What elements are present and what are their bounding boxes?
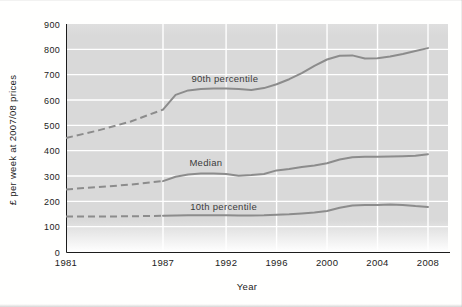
x-tick-label: 2008 [417,257,439,268]
x-tick-label: 1981 [55,257,77,268]
page-edge-top [0,0,462,1]
y-tick-label: 900 [44,20,60,30]
y-tick-label: 700 [44,70,60,80]
y-tick-label: 300 [44,172,60,182]
x-tick-label: 1996 [265,257,287,268]
series-line-dashed [66,216,163,217]
series-label: 90th percentile [191,73,258,84]
y-tick-label: 0 [55,248,60,258]
y-tick-label: 100 [44,222,60,232]
y-tick-label: 600 [44,96,60,106]
y-tick-label: 500 [44,121,60,131]
x-tick-label: 1992 [215,257,237,268]
x-tick-label: 1987 [152,257,174,268]
y-tick-label: 800 [44,45,60,55]
x-axis-title: Year [187,281,307,292]
x-tick-label: 2000 [316,257,338,268]
series-label: Median [189,157,222,168]
x-tick-label: 2004 [366,257,388,268]
scanned-chart-page: 90th percentileMedian10th percentile0100… [0,0,462,307]
y-tick-label: 400 [44,146,60,156]
y-tick-label: 200 [44,197,60,207]
plot-area [66,24,448,252]
series-label: 10th percentile [190,201,257,212]
y-axis-title: £ per week at 2007/08 prices [7,30,21,250]
pay-percentiles-line-chart: 90th percentileMedian10th percentile0100… [0,0,462,307]
